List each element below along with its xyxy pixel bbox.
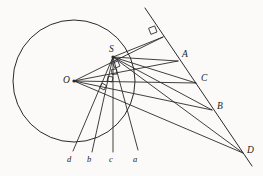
right-angle-at-S-upper [113,61,120,68]
point-label-b: b [87,155,91,164]
figure-canvas [0,0,263,176]
ray-O-to-B [74,81,212,110]
point-label-D: D [247,146,254,156]
transversal-AD [145,8,252,166]
right-angle-at-transversal [149,26,157,34]
segment-S-to-D [113,57,243,153]
point-label-C: C [201,74,207,84]
geometry-figure: OSACBDdbca [0,0,263,176]
perpendicular-S-to-transversal [113,37,163,57]
point-label-a: a [133,155,137,164]
point-label-d: d [67,155,71,164]
ray-S-to-b [92,57,113,152]
point-label-c: c [109,155,113,164]
point-dot-O [72,79,75,82]
segment-S-to-B [113,57,212,110]
point-dot-S [111,55,114,58]
point-label-B: B [217,102,223,112]
point-label-S: S [109,45,114,55]
point-label-A: A [182,50,188,60]
ray-S-to-d [73,57,113,151]
point-label-O: O [63,76,70,86]
